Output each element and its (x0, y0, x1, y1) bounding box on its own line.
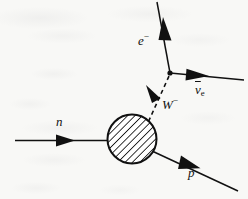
feynman-diagram-canvas (0, 0, 248, 199)
neutron-symbol: n (56, 114, 63, 129)
w-boson-label: W− (162, 98, 178, 111)
antineutrino-arrowhead (186, 69, 210, 81)
proton-line (152, 151, 238, 191)
antineutrino-line-group (170, 69, 244, 81)
neutron-arrowhead (56, 134, 75, 146)
antineutrino-symbol: ν (195, 82, 201, 96)
feynman-diagram-figure: e− n W− νe p (0, 0, 248, 199)
w-boson-symbol: W (162, 97, 173, 112)
neutron-label: n (56, 115, 63, 128)
w-boson-charge: − (173, 96, 178, 106)
hadronic-blob (108, 115, 157, 164)
proton-symbol: p (188, 165, 195, 180)
proton-line-group (152, 151, 238, 191)
proton-label: p (188, 166, 195, 179)
electron-charge: − (144, 32, 149, 42)
neutron-line-group (15, 134, 110, 146)
electron-line-group (157, 2, 172, 73)
antineutrino-label: νe (195, 82, 205, 96)
electron-label: e− (138, 34, 149, 47)
antineutrino-line (170, 73, 244, 80)
antineutrino-subscript: e (201, 88, 205, 98)
